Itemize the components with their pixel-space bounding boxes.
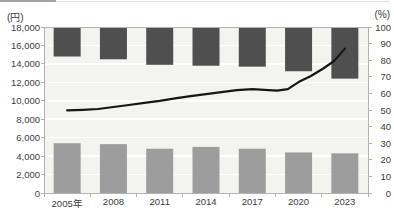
x-axis-year-label: 2023 <box>334 196 355 207</box>
chart-figure: (円) (%) 02,0004,0006,0008,00010,00012,00… <box>0 0 394 209</box>
x-axis-year-label: 2017 <box>242 196 263 207</box>
right-axis-tick-label: 30 <box>371 138 391 149</box>
gray-bar <box>239 149 266 193</box>
x-axis-year-label: 2014 <box>195 196 216 207</box>
left-axis-tick-label: 4,000 <box>0 151 40 162</box>
x-axis-year-label: 2008 <box>103 196 124 207</box>
plot-area <box>0 0 394 209</box>
right-axis-tick-label: 50 <box>371 105 391 116</box>
dark-bar <box>146 27 173 65</box>
right-axis-tick-label: 60 <box>371 88 391 99</box>
x-axis-year-label: 2020 <box>288 196 309 207</box>
dark-bar <box>193 27 220 66</box>
left-axis-tick-label: 6,000 <box>0 132 40 143</box>
right-axis-tick-label: 10 <box>371 171 391 182</box>
x-axis-year-label: 2011 <box>149 196 169 207</box>
left-axis-tick-label: 10,000 <box>0 95 40 106</box>
right-axis-tick-label: 70 <box>371 71 391 82</box>
right-axis-tick-label: 100 <box>371 22 391 33</box>
left-axis-tick-label: 2,000 <box>0 169 40 180</box>
right-axis-tick-label: 80 <box>371 55 391 66</box>
gray-bar <box>146 149 173 193</box>
gray-bar <box>285 152 312 193</box>
left-axis-tick-label: 16,000 <box>0 40 40 51</box>
left-axis-tick-label: 8,000 <box>0 114 40 125</box>
right-axis-tick-label: 40 <box>371 121 391 132</box>
right-axis-tick-label: 20 <box>371 154 391 165</box>
left-axis-tick-label: 14,000 <box>0 58 40 69</box>
right-axis-tick-label: 0 <box>371 188 391 199</box>
gray-bar <box>100 144 127 193</box>
gray-bar <box>331 153 358 193</box>
gray-bar <box>193 147 220 193</box>
dark-bar <box>331 27 358 79</box>
dark-bar <box>100 27 127 59</box>
left-axis-tick-label: 12,000 <box>0 77 40 88</box>
dark-bar <box>285 27 312 71</box>
left-axis-tick-label: 0 <box>0 188 40 199</box>
dark-bar <box>239 27 266 67</box>
right-axis-tick-label: 90 <box>371 38 391 49</box>
x-axis-year-label: 2005年 <box>52 196 83 209</box>
left-axis-tick-label: 18,000 <box>0 22 40 33</box>
gray-bar <box>54 143 81 193</box>
dark-bar <box>54 27 81 57</box>
